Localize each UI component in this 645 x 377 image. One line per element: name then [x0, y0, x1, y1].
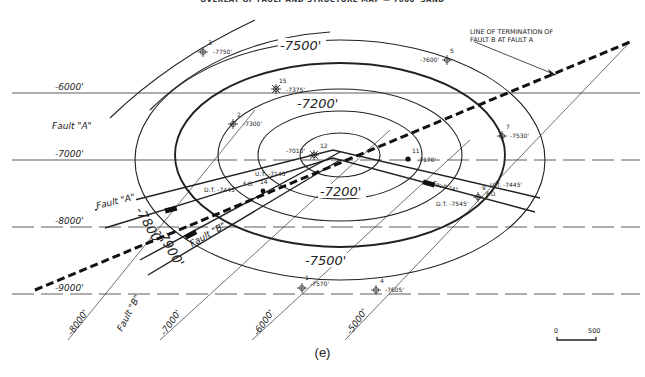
svg-text:2: 2: [237, 111, 241, 118]
svg-text:U.T. -7145': U.T. -7145': [255, 170, 288, 177]
well-15[interactable]: 15-7375': [271, 77, 305, 94]
dry-hole-icon: [371, 285, 381, 295]
svg-text:15: 15: [279, 77, 287, 84]
svg-text:-7600': -7600': [420, 56, 439, 63]
diag-label-8000: -8000': [65, 308, 90, 337]
svg-text:D.T. -7445': D.T. -7445': [204, 186, 237, 193]
contour-label-7200-center: -7200': [320, 184, 361, 199]
dry-hole-icon: [297, 283, 307, 293]
svg-text:-7170': -7170': [417, 156, 436, 163]
contour-label-7200-top: -7200': [297, 96, 338, 111]
fault-b-bottom-label: Fault "B": [115, 293, 142, 333]
dry-hole-icon: [473, 192, 483, 202]
well-4[interactable]: 4-7605': [371, 277, 404, 295]
svg-text:5: 5: [450, 47, 454, 54]
svg-text:U.T. -7445': U.T. -7445': [490, 181, 523, 188]
figure-caption: (e): [0, 345, 645, 360]
svg-text:14: 14: [260, 178, 268, 185]
fault-a-trace: [95, 150, 540, 228]
label-9000: -9000': [55, 283, 84, 293]
oil-well-icon: [405, 156, 410, 161]
gas-well-icon: [271, 84, 281, 94]
well-5[interactable]: 5-7600': [420, 47, 454, 65]
svg-text:3: 3: [208, 39, 212, 46]
svg-text:-7300': -7300': [243, 120, 262, 127]
svg-text:F.O.: F.O.: [486, 190, 497, 197]
svg-text:-7750': -7750': [213, 48, 232, 55]
svg-text:-7010': -7010': [286, 147, 305, 154]
well-3[interactable]: 3-7750': [198, 39, 232, 57]
dry-hole-icon: [198, 47, 208, 57]
scale-bar: 0 500: [554, 327, 600, 340]
svg-text:500: 500: [588, 327, 600, 335]
dry-hole-icon: [497, 131, 507, 141]
svg-text:-7605': -7605': [385, 286, 404, 293]
diag-label-6000: -6000': [251, 308, 276, 337]
well-12[interactable]: 12-7010': [286, 142, 328, 160]
structure-map: -6000' -7000' -8000' -9000' Fault "A" -8…: [0, 0, 645, 377]
svg-text:-7570': -7570': [310, 280, 329, 287]
annotation-arrow: [475, 42, 556, 75]
contour-label-7500-top: -7500': [280, 38, 321, 53]
annotation-line2: FAULT B AT FAULT A: [470, 36, 534, 44]
label-6000: -6000': [55, 82, 84, 92]
svg-text:12: 12: [320, 142, 328, 149]
svg-text:1: 1: [305, 274, 309, 281]
gas-well-icon: [309, 150, 319, 160]
svg-text:-7530': -7530': [510, 132, 529, 139]
svg-text:7: 7: [506, 123, 510, 130]
svg-text:11: 11: [412, 147, 420, 154]
svg-text:D.T. -7545': D.T. -7545': [436, 200, 469, 207]
label-8000: -8000': [55, 216, 84, 226]
well-7[interactable]: 7-7530': [497, 123, 529, 141]
svg-text:0: 0: [554, 327, 558, 335]
well-1[interactable]: 1-7570': [297, 274, 329, 293]
svg-text:-7375': -7375': [286, 86, 305, 93]
label-7000: -7000': [55, 149, 84, 159]
fault-a-left-label: Fault "A": [52, 121, 92, 131]
svg-text:F.O.: F.O.: [243, 180, 254, 187]
oil-well-icon: [261, 189, 266, 194]
fault-a-right-label: Fault "A": [432, 179, 460, 193]
annotation-line1: LINE OF TERMINATION OF: [470, 28, 553, 36]
diag-label-5000: -5000': [344, 307, 369, 336]
diag-line-8000: [68, 110, 255, 340]
svg-text:4: 4: [380, 277, 384, 284]
contour-label-7500-bottom: -7500': [305, 253, 346, 268]
